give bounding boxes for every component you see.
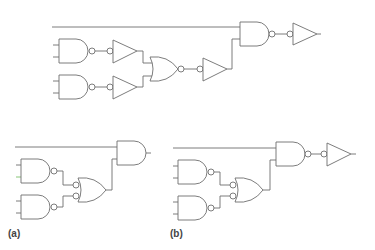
buffer-icon [327, 143, 351, 166]
nor-gate-icon [150, 57, 178, 82]
nand-gate-icon [59, 39, 88, 63]
top-circuit [52, 22, 321, 99]
nand-gate-icon [240, 22, 269, 46]
label-b: (b) [170, 228, 183, 239]
nand-gate-icon [276, 142, 305, 166]
label-a: (a) [8, 228, 20, 239]
buffer-icon [293, 23, 317, 45]
nand-gate-icon [21, 159, 50, 183]
nand-gate-icon [59, 75, 88, 99]
and-gate-icon [117, 141, 146, 165]
circuit-b [173, 142, 356, 220]
or-gate-icon [235, 178, 263, 203]
nand-gate-icon [21, 195, 50, 219]
or-gate-icon [78, 178, 106, 203]
nand-gate-icon [178, 160, 207, 184]
circuit-diagram [0, 0, 375, 250]
circuit-a [15, 141, 151, 219]
buffer-icon [113, 40, 137, 63]
buffer-icon [203, 58, 227, 81]
nand-gate-icon [178, 196, 207, 220]
buffer-icon [113, 76, 137, 99]
